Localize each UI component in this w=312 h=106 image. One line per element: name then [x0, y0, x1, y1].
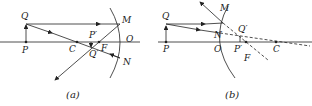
label-o-a: O: [126, 35, 133, 44]
panel-b: [158, 2, 312, 78]
label-q-a: Q: [21, 12, 28, 21]
label-pprime-a: P′: [89, 31, 97, 40]
label-qprime-b: Q′: [238, 25, 247, 34]
label-p-b: P: [163, 45, 169, 54]
label-q-b: Q: [162, 12, 169, 21]
label-qprime-a: Q′: [89, 50, 98, 59]
label-n-b: N: [214, 31, 222, 40]
caption-b: (b): [225, 90, 239, 100]
label-c-a: C: [69, 45, 76, 54]
label-o-b: O: [214, 45, 221, 54]
label-m-a: M: [122, 16, 131, 25]
label-p-a: P: [22, 46, 28, 55]
concave-mirror-a: [110, 8, 120, 78]
mirror-ray-diagrams: [0, 0, 312, 106]
label-pprime-b: P′: [234, 45, 242, 54]
label-m-b: M: [220, 4, 229, 13]
caption-a: (a): [66, 90, 80, 100]
label-f-b: F: [244, 54, 250, 63]
label-f-a: F: [101, 44, 107, 53]
label-c-b: C: [273, 45, 280, 54]
label-n-a: N: [123, 58, 131, 67]
